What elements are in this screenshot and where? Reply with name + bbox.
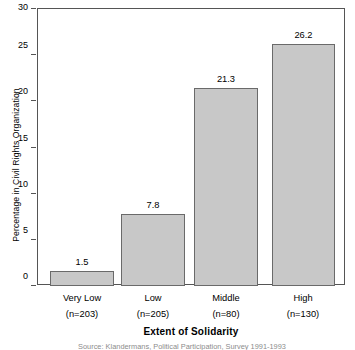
y-tick-mark-15 [31,147,36,148]
y-tick-mark-5 [31,239,36,240]
x-category-n-very-low: (n=203) [44,308,120,320]
y-tick-mark-25 [31,54,36,55]
y-tick-label-10: 10 [0,180,28,189]
y-tick-mark-30 [31,8,36,9]
y-tick-mark-20 [31,100,36,101]
y-tick-label-0: 0 [0,272,28,281]
bar-low[interactable] [121,214,185,286]
y-tick-label-30: 30 [0,3,28,12]
x-category-n-high: (n=130) [265,308,341,320]
x-category-n-middle: (n=80) [188,308,264,320]
bar-high[interactable] [272,44,335,286]
x-category-n-low: (n=205) [115,308,191,320]
y-tick-label-15: 15 [0,134,28,143]
source-caption: Source: Klandermans, Political Participa… [37,343,327,350]
bar-value-high: 26.2 [272,30,335,40]
y-tick-mark-10 [31,193,36,194]
x-category-label-very-low: Very Low [44,292,120,304]
x-axis-title: Extent of Solidarity [37,326,345,337]
y-tick-label-25: 25 [0,41,28,50]
bar-value-low: 7.8 [121,200,185,210]
y-axis-title: Percentage in Civil Rights Organization [11,40,21,290]
y-tick-label-20: 20 [0,87,28,96]
bar-middle[interactable] [194,88,258,286]
y-tick-label-5: 5 [0,226,28,235]
y-tick-mark-0 [31,285,36,286]
x-category-label-low: Low [115,292,191,304]
x-category-label-middle: Middle [188,292,264,304]
x-category-label-high: High [265,292,341,304]
bar-chart-figure: Percentage in Civil Rights Organization … [0,0,355,350]
bar-very-low[interactable] [50,271,114,286]
bar-value-very-low: 1.5 [50,257,114,267]
bar-value-middle: 21.3 [194,74,258,84]
